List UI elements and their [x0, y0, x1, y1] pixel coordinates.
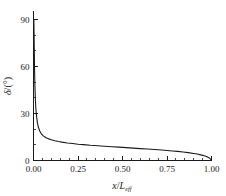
x-tick-label: 0.25 [70, 164, 86, 174]
x-tick-label: 0.75 [159, 164, 175, 174]
x-tick-label: 0.50 [115, 164, 131, 174]
y-tick-label: 30 [21, 109, 31, 119]
x-tick-label: 0.00 [26, 164, 42, 174]
y-axis-title: δ/(°) [2, 77, 14, 95]
y-tick-label: 90 [21, 15, 31, 25]
chart-figure: 0306090 0.000.250.500.751.00 δ/(°) x/Lef… [0, 0, 226, 196]
x-tick-label: 1.00 [204, 164, 220, 174]
svg-text:δ/(°): δ/(°) [2, 77, 14, 95]
plot-canvas: 0306090 0.000.250.500.751.00 δ/(°) x/Lef… [0, 0, 226, 196]
y-tick-label: 60 [21, 62, 31, 72]
